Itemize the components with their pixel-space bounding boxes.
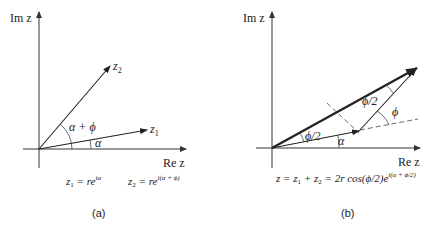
arc-half-phi-lower: [300, 133, 304, 142]
panel-a: Im z Re z z2 z1 α + ϕ α z1 = reiα z2 = r…: [10, 11, 186, 219]
alpha-label: α: [338, 134, 345, 148]
caption-a: (a): [92, 207, 105, 219]
half-phi-lower-label: ϕ/2: [305, 129, 321, 143]
panel-b: Im z Re z α ϕ/2 ϕ/2 ϕ z = z1 + z2 = 2r c…: [243, 11, 420, 219]
alpha-label: α: [95, 136, 102, 150]
z1-label: z1: [149, 122, 159, 138]
re-z-label: Re z: [163, 156, 185, 170]
diagram-canvas: Im z Re z z2 z1 α + ϕ α z1 = reiα z2 = r…: [0, 0, 442, 232]
im-z-label: Im z: [243, 11, 265, 25]
formula-z1: z1 = reiα: [65, 174, 101, 189]
arc-half-phi-upper: [386, 85, 393, 93]
caption-b: (b): [341, 207, 354, 219]
re-z-label: Re z: [398, 155, 420, 169]
arc-phi: [377, 111, 389, 125]
arc-alpha: [90, 140, 91, 149]
im-z-label: Im z: [10, 11, 32, 25]
alpha-plus-phi-label: α + ϕ: [69, 120, 96, 134]
formula-z2: z2 = rei(α + ϕ): [127, 174, 180, 189]
perpendicular-dashed: [327, 103, 359, 133]
formula-sum: z = z1 + z2 = 2r cos(ϕ/2)ei(α + ϕ/2): [275, 171, 417, 186]
z2-label: z2: [112, 59, 122, 75]
half-phi-upper-label: ϕ/2: [362, 94, 378, 108]
phi-label: ϕ: [392, 105, 398, 119]
